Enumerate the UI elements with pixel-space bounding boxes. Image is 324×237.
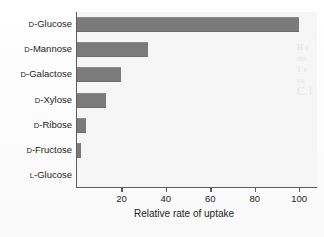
sugar-name: -Mannose [30,43,72,54]
bar-fill [77,17,299,32]
x-axis-title: Relative rate of uptake [0,208,324,219]
sugar-name: -Ribose [39,119,72,130]
x-tick-mark-20 [121,188,122,192]
bar-d-ribose [77,118,317,131]
page-bleedthrough-artifact: H tou1 sroC l [297,42,321,97]
bleed-line: H t [297,42,321,53]
category-label-l-glucose: L-Glucose [0,168,72,181]
bar-fill [77,93,106,108]
category-label-d-mannose: D-Mannose [0,42,72,55]
bleed-line: ou [297,53,321,64]
x-tick-mark-80 [255,188,256,192]
x-tick-label-20: 20 [116,193,127,204]
bar-fill [77,67,121,82]
bar-d-glucose [77,17,317,30]
sugar-name: -Fructose [32,144,72,155]
bar-d-galactose [77,67,317,80]
x-axis-title-text: Relative rate of uptake [90,208,234,219]
bar-l-glucose [77,168,317,181]
x-tick-mark-40 [166,188,167,192]
sugar-name: -Xylose [40,94,72,105]
x-tick-label-40: 40 [161,193,172,204]
category-label-d-fructose: D-Fructose [0,143,72,156]
bar-fill [77,143,81,158]
category-label-d-xylose: D-Xylose [0,93,72,106]
bar-chart: D-GlucoseD-MannoseD-GalactoseD-XyloseD-R… [0,0,324,237]
bar-fill [77,118,86,133]
sugar-name: -Glucose [34,169,72,180]
category-axis-labels: D-GlucoseD-MannoseD-GalactoseD-XyloseD-R… [0,12,72,188]
category-label-d-ribose: D-Ribose [0,118,72,131]
sugar-name: -Glucose [34,18,72,29]
x-tick-mark-60 [210,188,211,192]
bar-series [77,12,317,188]
category-label-d-glucose: D-Glucose [0,17,72,30]
bleed-line: 1 s [297,64,321,75]
category-label-d-galactose: D-Galactose [0,67,72,80]
bar-d-fructose [77,143,317,156]
bar-d-xylose [77,93,317,106]
x-tick-label-80: 80 [249,193,260,204]
sugar-name: -Galactose [26,68,72,79]
x-tick-mark-100 [299,188,300,192]
x-tick-label-60: 60 [205,193,216,204]
x-tick-label-100: 100 [291,193,307,204]
bar-fill [77,42,148,57]
bar-d-mannose [77,42,317,55]
bleed-line: C l [297,86,321,97]
